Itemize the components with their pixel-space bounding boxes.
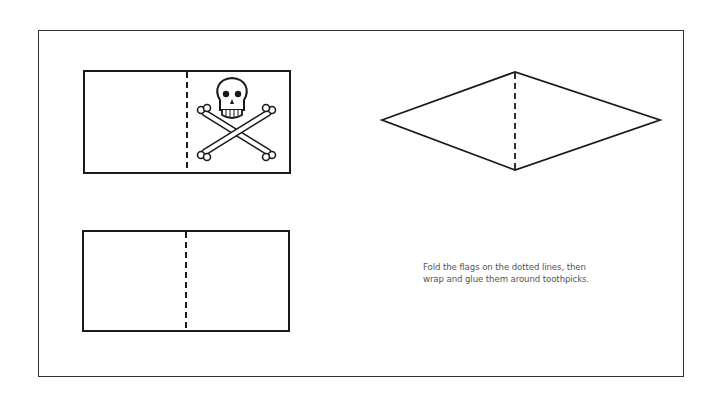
flag-templates: [0, 0, 712, 398]
blank-rectangle-flag: [83, 231, 289, 331]
instructions-line-1: Fold the flags on the dotted lines, then: [423, 261, 663, 273]
skull-and-crossbones-icon: [198, 78, 276, 161]
instructions-text: Fold the flags on the dotted lines, then…: [423, 261, 663, 285]
instructions-line-2: wrap and glue them around toothpicks.: [423, 273, 663, 285]
skull-crossbones-flag: [84, 71, 290, 173]
diamond-pennant-flag: [382, 72, 660, 170]
